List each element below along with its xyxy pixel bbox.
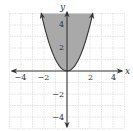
x-tick-label: 2 (88, 73, 93, 82)
coordinate-graph: x y −4 −2 2 4 4 2 −2 −4 (0, 0, 133, 131)
y-tick-label: −2 (52, 90, 64, 99)
y-axis-label: y (59, 2, 66, 12)
x-tick-label: 4 (111, 73, 116, 82)
x-axis-label: x (125, 66, 130, 76)
x-tick-label: −4 (15, 73, 27, 82)
y-tick-label: 4 (59, 20, 64, 29)
y-tick-label: −4 (52, 113, 64, 122)
x-tick-label: −2 (38, 73, 50, 82)
y-tick-label: 2 (59, 43, 64, 52)
x-tick-labels: −4 −2 2 4 (15, 73, 116, 82)
